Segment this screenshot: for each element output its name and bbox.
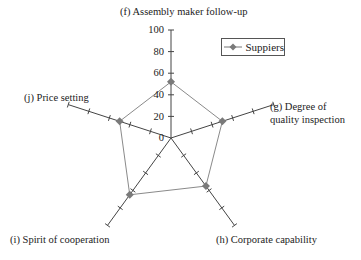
axis-label-g-line1: (g) Degree of (270, 101, 327, 113)
data-point-marker (126, 191, 134, 199)
legend-label: Suppiers (246, 41, 285, 53)
axis-line (108, 138, 171, 225)
tick-80: 80 (140, 46, 164, 58)
legend: Suppiers (221, 38, 285, 56)
data-point-marker (202, 182, 210, 190)
tick-40: 40 (140, 89, 164, 101)
tick-100: 100 (140, 24, 164, 36)
tick-20: 20 (140, 111, 164, 123)
axis-label-i: (i) Spirit of cooperation (10, 234, 109, 246)
tick-0: 0 (140, 132, 164, 144)
axis-label-f: (f) Assembly maker follow-up (120, 6, 247, 18)
tick-60: 60 (140, 67, 164, 79)
axis-label-h: (h) Corporate capability (216, 234, 317, 246)
radar-chart (0, 0, 361, 260)
data-point-marker (218, 117, 226, 125)
axis-label-j: (j) Price setting (24, 92, 89, 104)
legend-marker-icon (222, 42, 243, 52)
data-point-marker (167, 78, 175, 86)
axis-line (171, 138, 234, 225)
data-point-marker (116, 117, 124, 125)
axis-label-g-line2: quality inspection (270, 114, 345, 126)
